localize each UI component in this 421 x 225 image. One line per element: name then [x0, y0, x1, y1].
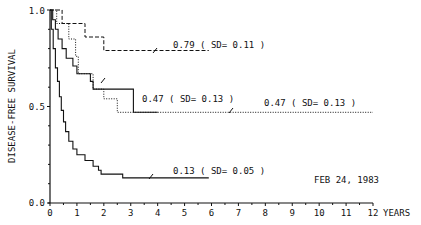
x-tick-label: 9 [290, 208, 295, 218]
x-tick-label: 12 [368, 208, 379, 218]
x-tick-label: 6 [209, 208, 214, 218]
x-tick-label: 5 [182, 208, 187, 218]
x-tick-label: 1 [74, 208, 79, 218]
x-tick-labels: 0123456789101112 [47, 208, 378, 218]
annotation-079: 0.79 ( SD= 0.11 ) [173, 40, 265, 50]
x-axis-title: YEARS [383, 208, 410, 218]
annotation-047-dotted: 0.47 ( SD= 0.13 ) [264, 98, 356, 108]
x-tick-label: 11 [341, 208, 352, 218]
y-tick-label-05: 0.5 [29, 102, 45, 112]
annotation-013: 0.13 ( SD= 0.05 ) [173, 166, 265, 176]
x-tick-label: 7 [236, 208, 241, 218]
censor-mark [101, 78, 105, 83]
x-tick-label: 0 [47, 208, 52, 218]
y-tick-label-0: 0.0 [29, 198, 45, 208]
x-tick-label: 4 [155, 208, 160, 218]
y-tick-label-1: 1.0 [29, 6, 45, 16]
survival-chart: 1.0 0.5 0.0 DISEASE-FREE SURVIVAL 012345… [0, 0, 421, 225]
annotation-047-solid: 0.47 ( SD= 0.13 ) [142, 94, 234, 104]
x-tick-label: 2 [101, 208, 106, 218]
x-tick-label: 8 [263, 208, 268, 218]
x-tick-label: 10 [314, 208, 325, 218]
date-stamp: FEB 24, 1983 [314, 175, 379, 185]
x-tick-label: 3 [128, 208, 133, 218]
y-axis-title: DISEASE-FREE SURVIVAL [7, 49, 17, 163]
